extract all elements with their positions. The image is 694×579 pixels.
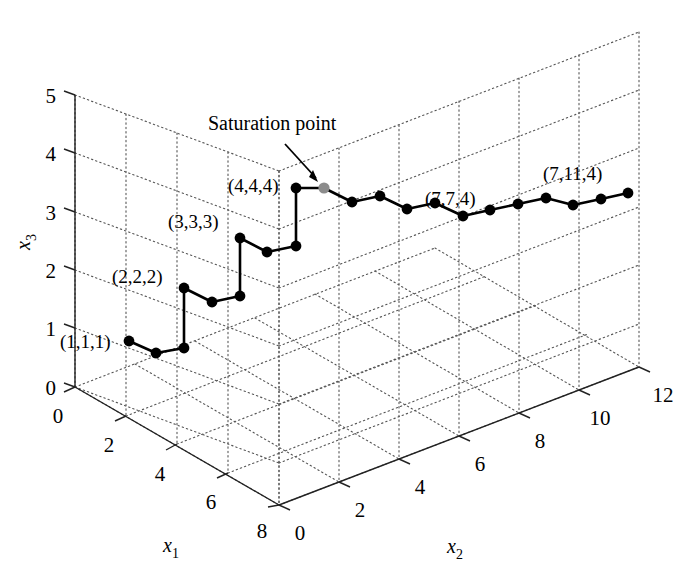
point-label-2-2-2: (2,2,2)	[112, 266, 163, 288]
x1-axis-title-sub: 1	[172, 546, 179, 561]
data-point	[402, 204, 413, 215]
saturation-point-marker	[318, 182, 329, 193]
x3-tick-0: 0	[46, 376, 57, 400]
data-point	[262, 247, 273, 258]
x3-axis-title-sub: 3	[24, 234, 39, 241]
point-label-4-4-4: (4,4,4)	[228, 175, 279, 197]
x3-tick-4: 4	[46, 142, 57, 166]
x2-tick-10: 10	[590, 406, 611, 430]
x1-axis-title: x1	[162, 534, 179, 561]
x2-tick-12: 12	[653, 383, 674, 407]
x3-tick-1: 1	[46, 317, 57, 341]
x2-tick-labels: 0 2 4 6 8 10 12	[295, 383, 674, 545]
x3-axis-title: x3	[12, 234, 39, 251]
data-point	[513, 199, 524, 210]
x2-tick-4: 4	[415, 475, 426, 499]
plot-svg: 5 4 3 2 1 0 0 2 4 6 8 0 2 4 6 8 10 12 x1…	[0, 0, 694, 579]
data-point	[485, 205, 496, 216]
x1-axis-title-text: x	[162, 534, 172, 556]
x3-tick-5: 5	[46, 84, 57, 108]
x2-axis-title-sub: 2	[456, 547, 463, 562]
saturation-arrow	[285, 144, 318, 182]
x1-tick-labels: 0 2 4 6 8	[53, 404, 268, 543]
point-label-7-7-4: (7,7,4)	[425, 188, 476, 210]
x2-tick-0: 0	[295, 521, 306, 545]
data-point	[179, 343, 190, 354]
point-label-1-1-1: (1,1,1)	[60, 331, 111, 353]
data-point	[623, 188, 634, 199]
x1-tick-6: 6	[206, 490, 217, 514]
data-point	[596, 194, 607, 205]
data-point	[291, 241, 302, 252]
x3-tick-labels: 5 4 3 2 1 0	[46, 84, 57, 400]
data-point	[179, 283, 190, 294]
trajectory-markers	[124, 182, 634, 358]
x2-axis-title: x2	[446, 535, 463, 562]
data-point	[347, 197, 358, 208]
x2-axis-title-text: x	[446, 535, 456, 557]
data-point	[375, 191, 386, 202]
data-point	[235, 291, 246, 302]
point-label-7-11-4: (7,11,4)	[543, 163, 602, 185]
x2-tick-2: 2	[355, 498, 366, 522]
x2-tick-8: 8	[535, 429, 546, 453]
data-point	[207, 297, 218, 308]
x3-tick-3: 3	[46, 201, 57, 225]
data-point	[151, 348, 162, 359]
x1-tick-0: 0	[53, 404, 64, 428]
saturation-point-label: Saturation point	[208, 112, 337, 135]
x2-tick-6: 6	[475, 452, 486, 476]
tick-marks	[64, 91, 650, 510]
data-point	[568, 200, 579, 211]
x1-tick-4: 4	[155, 462, 166, 486]
figure-3d-plot: 5 4 3 2 1 0 0 2 4 6 8 0 2 4 6 8 10 12 x1…	[0, 0, 694, 579]
data-point	[541, 193, 552, 204]
x3-tick-2: 2	[46, 259, 57, 283]
x1-tick-8: 8	[257, 519, 268, 543]
axis-spines	[75, 95, 639, 505]
data-point	[124, 336, 135, 347]
point-label-3-3-3: (3,3,3)	[168, 211, 219, 233]
x3-axis-title-text: x	[12, 241, 34, 251]
data-point	[235, 233, 246, 244]
x1-tick-2: 2	[104, 433, 115, 457]
data-point	[458, 211, 469, 222]
data-point	[291, 183, 302, 194]
